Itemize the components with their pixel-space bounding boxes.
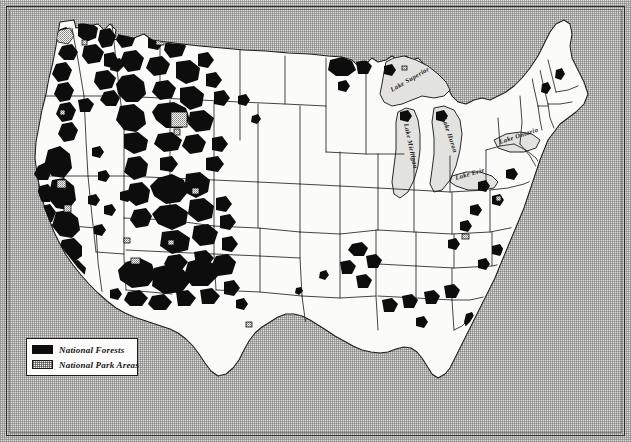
legend-label-forest: National Forests [59, 345, 124, 355]
legend-item-national-forests: National Forests [32, 343, 132, 356]
legend-item-national-park-areas: National Park Areas [32, 358, 132, 371]
map-figure: Lake Superior Lake Michigan Lake Huron L… [0, 0, 631, 442]
land-outline [35, 20, 588, 378]
map-legend: National Forests National Park Areas [26, 338, 138, 376]
legend-swatch-forest [32, 345, 53, 354]
legend-swatch-park [32, 360, 53, 369]
legend-label-park: National Park Areas [59, 360, 139, 370]
